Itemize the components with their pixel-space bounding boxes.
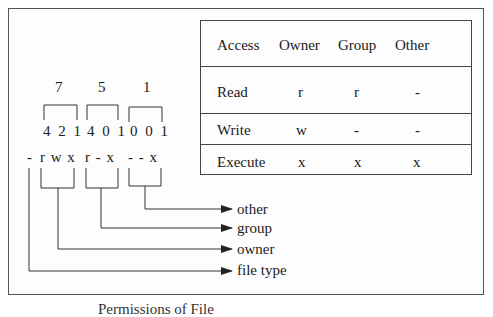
cell-group: x — [354, 155, 362, 170]
bracket-owner-bottom — [41, 168, 74, 188]
cell-other: x — [413, 155, 421, 170]
bits-group: 4 0 1 — [87, 124, 127, 139]
label-file-type: file type — [237, 263, 287, 278]
cell-access: Execute — [217, 155, 265, 170]
table-row: Write w - - — [201, 114, 471, 145]
figure-caption: Permissions of File — [98, 302, 214, 317]
cell-access: Read — [217, 85, 248, 100]
octal-digit-group: 5 — [98, 80, 106, 95]
cell-other: - — [415, 123, 420, 138]
perm-group: r - x — [85, 150, 115, 165]
octal-digit-other: 1 — [143, 80, 151, 95]
cell-owner: x — [298, 155, 306, 170]
table-header-row: Access Owner Group Other — [201, 21, 471, 67]
cell-owner: w — [296, 123, 307, 138]
line-other — [145, 186, 232, 209]
cell-other: - — [415, 85, 420, 100]
bracket-other-bottom — [129, 168, 161, 186]
perm-file-type: - — [27, 150, 33, 165]
cell-group: - — [354, 123, 359, 138]
header-other: Other — [395, 38, 429, 53]
cell-group: r — [354, 85, 359, 100]
cell-owner: r — [298, 85, 303, 100]
header-access: Access — [217, 38, 259, 53]
bracket-other-top — [129, 107, 162, 122]
perm-other: - - x — [128, 150, 158, 165]
header-owner: Owner — [279, 38, 320, 53]
line-group — [101, 188, 232, 228]
bits-other: 0 0 1 — [130, 124, 170, 139]
label-other: other — [237, 202, 268, 217]
header-group: Group — [338, 38, 376, 53]
bits-owner: 4 2 1 — [43, 124, 83, 139]
label-group: group — [237, 221, 272, 236]
perm-owner: r w x — [40, 150, 76, 165]
bracket-group-bottom — [86, 168, 118, 188]
permissions-table: Access Owner Group Other Read r r - Writ… — [200, 20, 472, 175]
bracket-owner-top — [44, 105, 77, 120]
line-file-type — [29, 168, 232, 271]
cell-access: Write — [217, 123, 251, 138]
label-owner: owner — [237, 242, 275, 257]
bracket-group-top — [87, 105, 118, 120]
octal-digit-owner: 7 — [55, 80, 63, 95]
table-row: Execute x x x — [201, 145, 471, 174]
table-row: Read r r - — [201, 67, 471, 114]
